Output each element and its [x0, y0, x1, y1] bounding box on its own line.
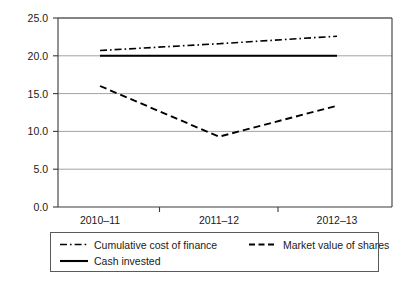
- line-chart: 25.0 20.0 15.0 10.0 5.0 0.0 2010–11 2011…: [0, 0, 405, 283]
- y-tick-label-5: 5.0: [33, 163, 48, 175]
- y-axis-labels: 25.0 20.0 15.0 10.0 5.0 0.0: [28, 12, 49, 213]
- y-tick-label-20: 20.0: [28, 50, 49, 62]
- x-tick-label-2011-12: 2011–12: [199, 214, 239, 226]
- y-tick-label-25: 25.0: [28, 12, 49, 24]
- legend-label-cash-invested: Cash invested: [94, 255, 161, 267]
- chart-legend: Cumulative cost of finance Market value …: [51, 233, 390, 272]
- chart-canvas: 25.0 20.0 15.0 10.0 5.0 0.0 2010–11 2011…: [0, 0, 405, 283]
- y-tick-label-0: 0.0: [33, 201, 48, 213]
- y-tick-marks: [53, 18, 58, 207]
- y-tick-label-10: 10.0: [28, 125, 49, 137]
- x-axis-labels: 2010–11 2011–12 2012–13: [80, 214, 358, 226]
- plot-area-background: [58, 18, 392, 207]
- x-tick-label-2012-13: 2012–13: [317, 214, 358, 226]
- x-tick-label-2010-11: 2010–11: [80, 214, 120, 226]
- y-tick-label-15: 15.0: [28, 88, 49, 100]
- legend-label-cumulative-cost-of-finance: Cumulative cost of finance: [94, 239, 217, 251]
- legend-label-market-value-of-shares: Market value of shares: [283, 239, 389, 251]
- x-tick-marks: [160, 207, 279, 212]
